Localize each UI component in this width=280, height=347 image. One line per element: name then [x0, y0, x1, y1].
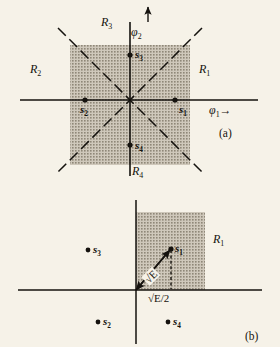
panel-b-signal-label-s4: s4	[173, 316, 181, 330]
panel-a-signal-label-s2: s2	[80, 104, 88, 118]
panel-a-signal-label-s1: s1	[179, 104, 187, 118]
figure-container: R1 R2 R3 R4 φ2 φ1→ s1 s2 s3 s4 (a) R1 s1…	[0, 0, 280, 347]
panel-a-point-s1	[172, 97, 177, 102]
panel-b-point-s1	[168, 246, 173, 251]
panel-b-caption: (b)	[245, 331, 258, 343]
panel-a-point-s3	[127, 52, 132, 57]
panel-a-point-s2	[82, 97, 87, 102]
panel-a-region-label-r4: R4	[132, 165, 143, 180]
panel-a-signal-label-s3: s3	[135, 49, 143, 63]
panel-a-y-axis-label: φ2	[131, 26, 142, 41]
panel-b-signal-label-s1: s1	[175, 243, 183, 257]
panel-a-region-label-r2: R2	[30, 63, 41, 78]
panel-b-point-s3	[86, 248, 91, 253]
panel-b-signal-label-s2: s2	[103, 316, 111, 330]
panel-b-signal-label-s3: s3	[93, 244, 101, 258]
panel-a-point-s4	[127, 142, 132, 147]
panel-a-caption: (a)	[219, 128, 232, 140]
panel-a-region-label-r3: R3	[101, 16, 112, 31]
panel-b-point-s4	[166, 320, 171, 325]
panel-b-region-label-r1: R1	[213, 233, 224, 248]
panel-b-projection-label: √E/2	[148, 293, 169, 304]
panel-a-signal-label-s4: s4	[135, 140, 143, 154]
panel-a-x-axis-label: φ1→	[209, 104, 231, 119]
panel-a-region-label-r1: R1	[199, 63, 210, 78]
panel-b-graphics	[18, 200, 262, 344]
panel-b-point-s2	[96, 320, 101, 325]
panel-a-x-axis-arrow-glyph: →	[220, 103, 231, 117]
